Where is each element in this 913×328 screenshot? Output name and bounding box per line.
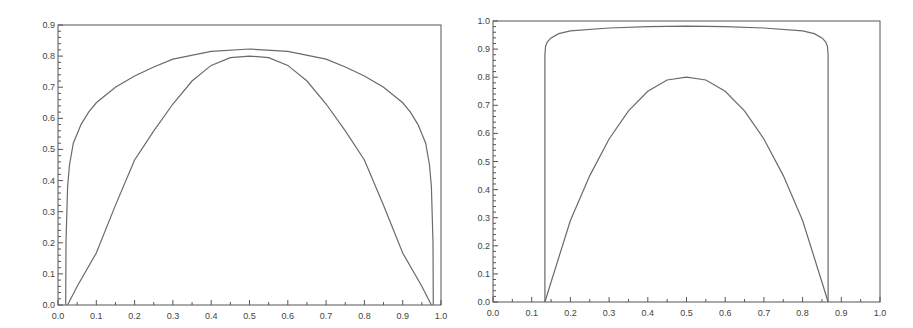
y-tick-label: 0.6	[477, 128, 490, 138]
x-tick-label: 1.0	[874, 308, 887, 318]
x-tick-label: 1.0	[435, 311, 448, 321]
y-tick-label: 0.4	[42, 176, 55, 186]
x-tick-label: 0.5	[243, 311, 256, 321]
x-tick-label: 0.7	[758, 308, 771, 318]
x-tick-label: 0.1	[90, 311, 103, 321]
y-tick-label: 0.7	[477, 100, 490, 110]
plot-frame	[493, 21, 880, 302]
x-tick-label: 0.2	[128, 311, 141, 321]
x-tick-label: 0.8	[796, 308, 809, 318]
right-plot: 0.00.10.20.30.40.50.60.70.80.91.00.00.10…	[477, 16, 886, 318]
y-tick-label: 0.0	[477, 297, 490, 307]
x-tick-label: 0.4	[205, 311, 218, 321]
plot-frame	[58, 25, 441, 305]
y-tick-label: 0.8	[42, 51, 55, 61]
x-tick-label: 0.6	[282, 311, 295, 321]
y-tick-label: 0.8	[477, 72, 490, 82]
left-plot: 0.00.10.20.30.40.50.60.70.80.91.00.00.10…	[42, 20, 447, 321]
x-tick-label: 0.9	[396, 311, 409, 321]
x-tick-label: 0.0	[487, 308, 500, 318]
y-tick-label: 0.1	[477, 269, 490, 279]
y-tick-label: 0.1	[42, 269, 55, 279]
x-tick-label: 0.7	[320, 311, 333, 321]
y-tick-label: 1.0	[477, 16, 490, 26]
y-tick-label: 0.9	[42, 20, 55, 30]
y-tick-label: 0.3	[477, 213, 490, 223]
x-tick-label: 0.3	[167, 311, 180, 321]
chart-canvas: 0.00.10.20.30.40.50.60.70.80.91.00.00.10…	[0, 0, 913, 328]
x-tick-label: 0.1	[525, 308, 538, 318]
y-tick-label: 0.0	[42, 300, 55, 310]
x-tick-label: 0.9	[835, 308, 848, 318]
x-tick-label: 0.0	[52, 311, 65, 321]
x-tick-label: 0.8	[358, 311, 371, 321]
y-tick-label: 0.6	[42, 113, 55, 123]
series-inner-line	[545, 77, 828, 302]
series-outer-line	[545, 26, 828, 302]
y-tick-label: 0.4	[477, 185, 490, 195]
x-tick-label: 0.4	[642, 308, 655, 318]
y-tick-label: 0.5	[42, 144, 55, 154]
y-tick-label: 0.2	[42, 238, 55, 248]
x-tick-label: 0.6	[719, 308, 732, 318]
series-outer-line	[66, 49, 434, 305]
y-tick-label: 0.2	[477, 241, 490, 251]
x-tick-label: 0.2	[564, 308, 577, 318]
y-tick-label: 0.3	[42, 207, 55, 217]
x-tick-label: 0.3	[603, 308, 616, 318]
x-tick-label: 0.5	[680, 308, 693, 318]
y-tick-label: 0.9	[477, 44, 490, 54]
y-tick-label: 0.5	[477, 157, 490, 167]
y-tick-label: 0.7	[42, 82, 55, 92]
series-inner-line	[68, 56, 432, 305]
